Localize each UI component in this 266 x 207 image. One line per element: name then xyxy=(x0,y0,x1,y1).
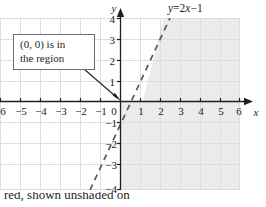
x-tick-label: 3 xyxy=(178,105,184,117)
equation-constant: 1 xyxy=(197,2,203,14)
x-tick-label: 5 xyxy=(218,105,224,117)
callout-box: (0, 0) is in the region xyxy=(13,34,95,70)
callout-line-2: the region xyxy=(20,52,89,66)
coordinate-plane: 6 −5 −4 −3 −2 −1 0 1 2 3 4 5 6 4 3 2 1 −… xyxy=(0,0,266,207)
y-tick-label: 1 xyxy=(110,76,116,88)
y-tick-label: 2 xyxy=(110,55,116,67)
x-axis-arrowhead xyxy=(244,98,253,105)
origin-label: 0 xyxy=(111,105,117,117)
x-tick-label: 4 xyxy=(198,105,204,117)
callout-line-1: (0, 0) is in xyxy=(20,38,89,52)
x-tick-label: 6 xyxy=(236,105,242,117)
x-tick-label: −1 xyxy=(95,105,107,117)
x-tick-label: 6 xyxy=(0,105,6,117)
y-tick-label: 4 xyxy=(110,13,116,25)
graph-figure: 6 −5 −4 −3 −2 −1 0 1 2 3 4 5 6 4 3 2 1 −… xyxy=(0,0,266,207)
y-axis-label: y xyxy=(111,2,117,14)
x-axis-label: x xyxy=(253,106,259,118)
caption-fragment: red, shown unshaded on xyxy=(4,192,266,207)
y-tick-label: 3 xyxy=(110,34,116,46)
y-tick-label: −3 xyxy=(105,159,117,171)
x-tick-label: −2 xyxy=(75,105,87,117)
x-tick-label: −3 xyxy=(55,105,67,117)
y-tick-label: −2 xyxy=(105,138,117,150)
x-tick-label: −5 xyxy=(15,105,27,117)
y-tick-label: −1 xyxy=(105,117,117,129)
x-tick-label: 1 xyxy=(138,105,144,117)
equation-label: y=2x−1 xyxy=(168,2,203,15)
y-axis-arrowhead xyxy=(117,8,124,17)
x-tick-label: −4 xyxy=(35,105,47,117)
x-tick-label: 2 xyxy=(158,105,164,117)
caption-text: red, shown unshaded on xyxy=(4,192,266,202)
